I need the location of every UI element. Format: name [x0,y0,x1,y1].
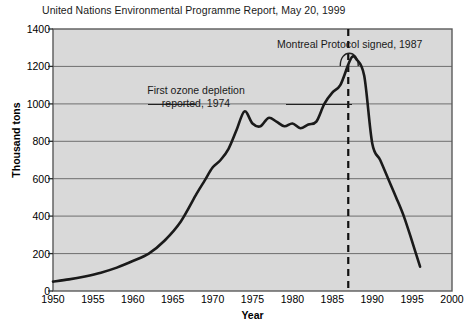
chart-figure: United Nations Environmental Programme R… [0,0,474,326]
annotation-first-ozone-line1: First ozone depletion [140,84,252,97]
annotation-montreal-protocol: Montreal Protocol signed, 1987 [277,38,422,51]
annotation-first-ozone-depletion: First ozone depletion reported, 1974 [140,84,252,109]
plot-background [53,29,452,291]
annotation-first-ozone-line2: reported, 1974 [140,97,252,110]
y-tick-marks [48,29,53,291]
